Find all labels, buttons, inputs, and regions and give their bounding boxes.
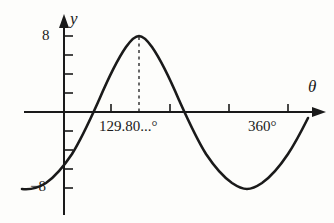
x-tick-label-peak: 129.80...° (99, 119, 158, 134)
x-axis-ticks (111, 104, 288, 112)
y-axis-label: y (70, 10, 78, 27)
x-tick-label-360: 360° (248, 119, 277, 134)
y-axis (59, 14, 69, 215)
x-axis-arrowhead (312, 107, 326, 117)
plot-canvas (0, 0, 334, 223)
y-tick-label-8: 8 (42, 28, 50, 43)
y-tick-label-neg8: −8 (30, 179, 46, 194)
x-axis-label: θ (308, 78, 316, 95)
y-axis-arrowhead (59, 14, 69, 28)
x-axis (24, 107, 326, 117)
trig-graph-figure: y θ 8 −8 129.80...° 360° (0, 0, 334, 223)
